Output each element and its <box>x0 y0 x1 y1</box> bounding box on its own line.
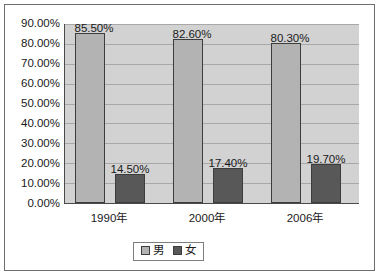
x-axis-tick-1990: 1990年 <box>79 209 139 225</box>
y-axis-tick: 90.00% <box>5 18 60 30</box>
y-axis-tick: 30.00% <box>5 138 60 150</box>
y-axis-tick: 40.00% <box>5 118 60 130</box>
x-axis-tick-2006: 2006年 <box>275 209 335 225</box>
bar-male-1990[interactable] <box>75 33 105 203</box>
gridline <box>65 104 359 105</box>
y-axis-tick: 10.00% <box>5 178 60 190</box>
gridline <box>65 84 359 85</box>
chart-frame: 90.00% 80.00% 70.00% 60.00% 50.00% 40.00… <box>4 4 375 271</box>
bar-label-male-1990: 85.50% <box>65 23 123 35</box>
bar-female-2006[interactable] <box>311 164 341 203</box>
x-axis: 1990年 2000年 2006年 <box>64 209 359 229</box>
legend-entry-male[interactable]: 男 <box>141 245 164 257</box>
legend-swatch-icon-female <box>173 246 182 255</box>
bar-male-2006[interactable] <box>271 43 301 203</box>
bar-label-male-2006: 80.30% <box>261 33 319 45</box>
y-axis-tick: 70.00% <box>5 58 60 70</box>
legend-label-male: 男 <box>153 245 164 257</box>
y-axis-tick: 50.00% <box>5 98 60 110</box>
bar-female-1990[interactable] <box>115 174 145 203</box>
y-axis-tick: 60.00% <box>5 78 60 90</box>
plot-area: 85.50% 14.50% 82.60% 17.40% 80.30% 19.70… <box>64 24 359 204</box>
y-axis-tick: 80.00% <box>5 38 60 50</box>
bar-label-male-2000: 82.60% <box>163 29 221 41</box>
legend: 男 女 <box>133 242 204 261</box>
legend-swatch-icon-male <box>141 246 150 255</box>
bar-label-female-2000: 17.40% <box>198 158 258 170</box>
bar-female-2000[interactable] <box>213 168 243 203</box>
legend-entry-female[interactable]: 女 <box>173 245 196 257</box>
y-axis: 90.00% 80.00% 70.00% 60.00% 50.00% 40.00… <box>5 24 60 204</box>
legend-label-female: 女 <box>185 245 196 257</box>
x-axis-tick-2000: 2000年 <box>177 209 237 225</box>
bar-label-female-1990: 14.50% <box>100 164 160 176</box>
gridline <box>65 123 359 124</box>
y-axis-tick: 20.00% <box>5 158 60 170</box>
gridline <box>65 64 359 65</box>
y-axis-tick: 0.00% <box>5 198 60 210</box>
bar-male-2000[interactable] <box>173 39 203 203</box>
bar-label-female-2006: 19.70% <box>296 154 356 166</box>
gridline <box>65 143 359 144</box>
